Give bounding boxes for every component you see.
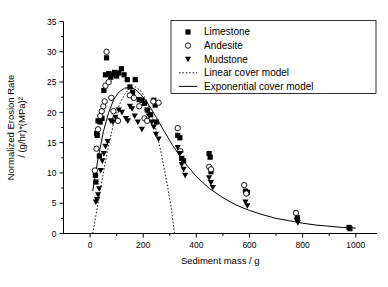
y-tick-label: 0 — [52, 229, 57, 239]
x-tick-label: 200 — [136, 240, 150, 250]
marker-circle — [293, 210, 298, 215]
marker-circle — [208, 167, 213, 172]
marker-square — [127, 84, 132, 89]
marker-square — [154, 119, 159, 124]
marker-circle — [185, 43, 190, 48]
marker-triangle — [95, 192, 101, 198]
marker-triangle — [119, 110, 125, 116]
legend-label: Andesite — [204, 40, 243, 51]
axis-labels-group: Sediment mass / gNormalized Erosion Rate… — [5, 75, 260, 266]
marker-square — [185, 29, 190, 34]
marker-triangle — [139, 127, 145, 133]
y-axis-title-line1: Normalized Erosion Rate — [5, 75, 16, 181]
marker-circle — [104, 49, 109, 54]
legend-label: Linear cover model — [204, 67, 289, 78]
marker-square — [208, 155, 213, 160]
y-tick-label: 5 — [52, 198, 57, 208]
legend-label: Limestone — [204, 26, 251, 37]
marker-triangle — [206, 175, 212, 181]
marker-triangle — [208, 180, 214, 186]
marker-triangle — [99, 158, 105, 164]
y-tick-label: 10 — [47, 168, 57, 178]
marker-circle — [244, 191, 249, 196]
marker-triangle — [98, 168, 104, 174]
y-axis-group: 05101520253035 — [47, 17, 63, 239]
x-axis-group: 02004006008001000 — [64, 234, 378, 250]
x-tick-label: 0 — [88, 240, 93, 250]
marker-square — [93, 179, 98, 184]
series-mudstone — [93, 104, 301, 226]
y-tick-label: 30 — [47, 47, 57, 57]
marker-square — [347, 226, 352, 231]
marker-circle — [175, 125, 180, 130]
marker-square — [119, 66, 124, 71]
y-axis-title-line2: / (g/hr)*(MPa)² — [16, 97, 27, 158]
marker-triangle — [135, 120, 141, 126]
marker-circle — [151, 99, 156, 104]
marker-circle — [131, 95, 136, 100]
marker-circle — [95, 127, 100, 132]
marker-circle — [94, 146, 99, 151]
marker-circle — [109, 95, 114, 100]
marker-triangle — [125, 118, 131, 124]
legend-group: LimestoneAndesiteMudstoneLinear cover mo… — [171, 21, 376, 94]
marker-circle — [106, 79, 111, 84]
marker-square — [95, 133, 100, 138]
x-axis-title: Sediment mass / g — [181, 255, 260, 266]
marker-square — [177, 135, 182, 140]
y-tick-label: 35 — [47, 17, 57, 27]
marker-square — [97, 153, 102, 158]
marker-circle — [92, 168, 97, 173]
marker-triangle — [156, 137, 162, 143]
marker-triangle — [180, 167, 186, 173]
marker-triangle — [182, 173, 188, 179]
x-tick-label: 1000 — [346, 240, 365, 250]
marker-triangle — [132, 113, 138, 119]
legend-label: Exponential cover model — [204, 81, 314, 92]
y-tick-label: 15 — [47, 138, 57, 148]
marker-square — [125, 77, 130, 82]
chart-canvas: 05101520253035 02004006008001000 Sedimen… — [0, 0, 388, 287]
marker-triangle — [153, 132, 159, 138]
marker-triangle — [179, 162, 185, 168]
marker-circle — [156, 100, 161, 105]
x-tick-label: 600 — [242, 240, 256, 250]
marker-square — [121, 72, 126, 77]
y-tick-label: 25 — [47, 77, 57, 87]
erosion-rate-scatter-figure: 05101520253035 02004006008001000 Sedimen… — [0, 0, 388, 287]
marker-square — [104, 55, 109, 60]
legend-label: Mudstone — [204, 54, 248, 65]
marker-square — [133, 77, 138, 82]
marker-circle — [111, 108, 116, 113]
x-tick-label: 800 — [296, 240, 310, 250]
marker-triangle — [96, 186, 102, 192]
marker-circle — [241, 182, 246, 187]
marker-circle — [115, 118, 120, 123]
x-tick-label: 400 — [189, 240, 203, 250]
marker-triangle — [244, 203, 250, 209]
marker-circle — [137, 104, 142, 109]
y-tick-label: 20 — [47, 108, 57, 118]
marker-square — [142, 101, 147, 106]
marker-circle — [102, 99, 107, 104]
